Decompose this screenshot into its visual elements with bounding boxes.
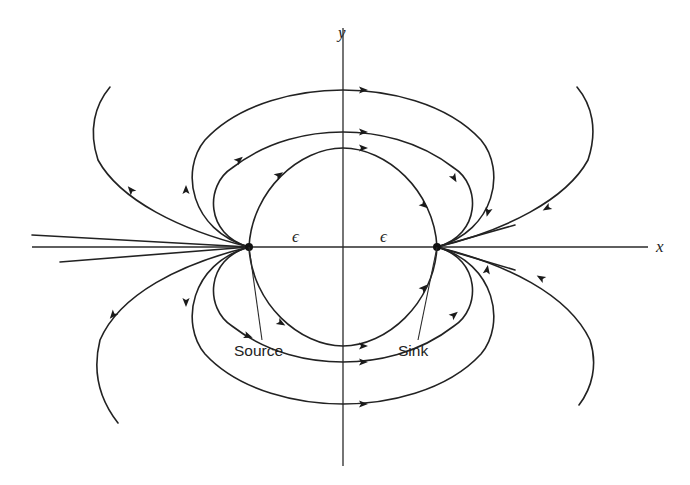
streamlines <box>32 87 594 423</box>
epsilon-label-right: ϵ <box>380 227 388 246</box>
streamline-fan-lower-right <box>437 247 515 270</box>
source-label: Source <box>234 342 283 359</box>
arrowhead-icon <box>483 264 492 274</box>
arrowhead-icon <box>276 318 287 329</box>
streamline-far-upper-right <box>437 87 593 247</box>
singular-points: Source Sink <box>234 243 441 359</box>
arrowhead-icon <box>449 309 461 320</box>
sink-leader-line <box>418 247 437 340</box>
sink-label: Sink <box>398 342 428 359</box>
y-axis-label: y <box>336 23 346 42</box>
streamline-fan-upper-left <box>32 235 249 247</box>
distance-labels: ϵ ϵ <box>292 227 388 246</box>
x-axis-label: x <box>655 237 664 256</box>
arrowhead-icon <box>449 173 460 184</box>
source-leader-line <box>249 247 262 340</box>
streamline-far-lower-left <box>97 247 249 423</box>
arrowhead-icon <box>182 298 189 307</box>
streamline-far-upper-left <box>93 87 249 247</box>
streamline-fan-upper-right <box>437 225 515 247</box>
arrowhead-icon <box>182 185 189 194</box>
arrowhead-icon <box>535 272 546 283</box>
source-sink-diagram: x y Source Sink ϵ ϵ <box>0 0 690 485</box>
diagram-canvas: x y Source Sink ϵ ϵ <box>0 0 690 485</box>
epsilon-label-left: ϵ <box>292 227 300 246</box>
